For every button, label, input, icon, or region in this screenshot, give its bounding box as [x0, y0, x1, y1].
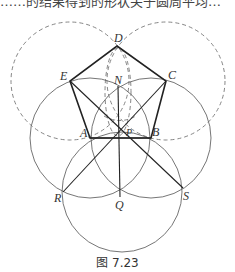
label-P: P: [125, 127, 132, 138]
circle-bottom: [62, 132, 182, 252]
label-A: A: [79, 126, 88, 140]
label-N: N: [113, 73, 123, 87]
label-R: R: [53, 191, 62, 205]
label-B: B: [152, 125, 160, 139]
label-Q: Q: [115, 198, 124, 212]
line-N-Q: [118, 86, 120, 197]
line-C-R: [63, 81, 166, 192]
solid-circles: [30, 78, 211, 252]
label-D: D: [113, 31, 123, 45]
label-C: C: [168, 68, 177, 82]
geometry-figure: D E C N A B P Q R S: [0, 0, 235, 272]
figure-caption: 图 7.23: [0, 253, 235, 270]
label-E: E: [59, 69, 68, 83]
label-S: S: [183, 189, 189, 203]
